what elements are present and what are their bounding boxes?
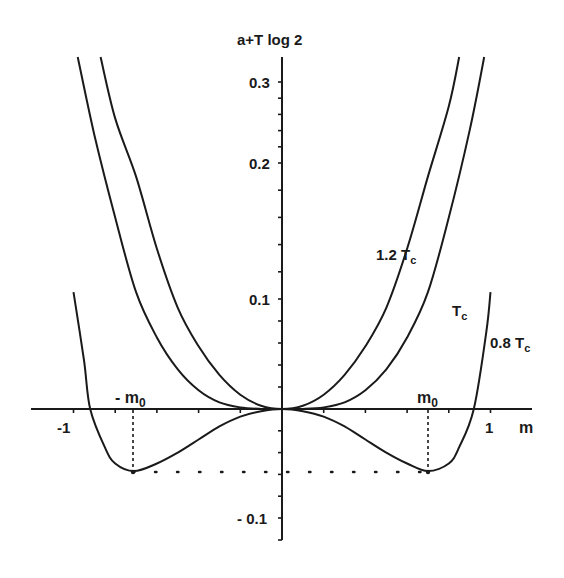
y-tick-label-0.3: 0.3: [249, 74, 270, 91]
curve-label-0-8-tc: 0.8 Tc: [490, 334, 530, 354]
y-tick-label-0.2: 0.2: [249, 155, 270, 172]
y-tick-label-neg-0.1: - 0.1: [237, 510, 267, 527]
x-axis-label: m: [519, 419, 533, 436]
y-axis-label: a+T log 2: [237, 31, 302, 48]
neg-m0-label: - m0: [115, 389, 146, 410]
curve-label-1-2-tc: 1.2 Tc: [376, 246, 416, 266]
x-tick-label-neg-1: -1: [57, 419, 70, 436]
min-point-left: [131, 470, 135, 474]
x-tick-label-1: 1: [485, 419, 493, 436]
y-tick-label-0.1: 0.1: [249, 291, 270, 308]
curve-label-tc: Tc: [452, 302, 467, 322]
min-point-right: [426, 470, 430, 474]
curve-tc: [78, 57, 485, 409]
curve-1-2-tc: [101, 57, 460, 409]
m0-label: m0: [417, 389, 438, 410]
free-energy-chart: a+T log 2 0.3 0.2 0.1 - 0.1 -1 1 m m0 - …: [0, 0, 564, 578]
